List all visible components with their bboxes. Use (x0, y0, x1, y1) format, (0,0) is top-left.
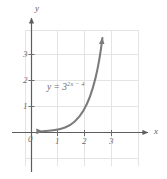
equation-exponent: 2x − 4 (67, 80, 84, 87)
x-tick-label-2: 2 (82, 137, 87, 146)
x-tick-label-3: 3 (109, 137, 114, 146)
y-tick-label-2: 2 (23, 76, 28, 85)
exponential-function-graph-figure: 0 1 2 3 1 2 3 y x y = 32x − 4 (0, 0, 167, 179)
x-tick-label-0: 0 (28, 135, 33, 144)
y-axis-label: y (35, 4, 39, 13)
y-tick-label-1: 1 (23, 102, 28, 111)
equation-annotation: y = 32x − 4 (47, 83, 85, 93)
y-tick-label-3: 3 (23, 50, 28, 59)
x-axis-label: x (154, 127, 158, 136)
x-tick-label-1: 1 (55, 137, 60, 146)
